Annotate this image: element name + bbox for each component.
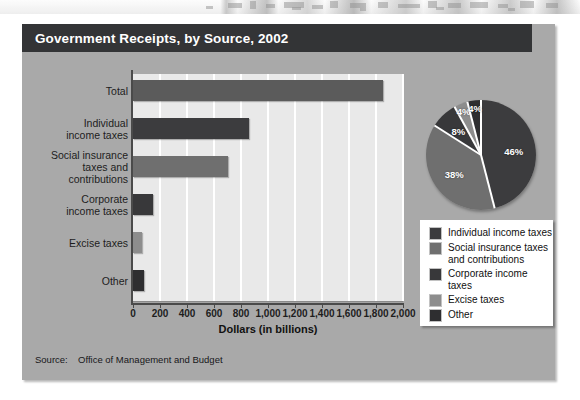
bar-category-label-line: income taxes: [0, 205, 128, 217]
legend-item-label: Social insurance taxesand contributions: [448, 242, 548, 265]
pie-chart: 46%38%8%4%4%: [426, 100, 536, 210]
x-tick-label: 600: [206, 308, 223, 319]
x-tick-label: 1,000: [255, 308, 280, 319]
bar-category-label-line: Other: [0, 275, 128, 287]
bar: [133, 232, 142, 253]
x-tick-label: 200: [152, 308, 169, 319]
source-value: Office of Management and Budget: [78, 354, 223, 365]
x-tick-label: 2,000: [390, 308, 415, 319]
bar-category-label: Individualincome taxes: [0, 117, 128, 141]
source-note: Source: Office of Management and Budget: [35, 354, 223, 365]
legend-item-label-line: Other: [448, 309, 473, 321]
bar-category-label: Social insurancetaxes andcontributions: [0, 149, 128, 185]
scan-fleck: [378, 2, 388, 8]
scan-fleck: [312, 5, 323, 9]
scan-fleck: [250, 1, 256, 9]
x-tick-label: 1,800: [363, 308, 388, 319]
legend-item[interactable]: Corporate income taxes: [430, 268, 553, 291]
figure-card: Government Receipts, by Source, 2002 Tot…: [22, 24, 555, 380]
legend-item-label-line: Excise taxes: [448, 294, 504, 306]
legend-item-label-line: and contributions: [448, 254, 548, 266]
legend-color-swatch: [430, 269, 441, 280]
x-tick-label: 1,400: [309, 308, 334, 319]
bar-category-label: Other: [0, 275, 128, 287]
gridline: [213, 74, 215, 301]
bar-category-label-line: Excise taxes: [0, 237, 128, 249]
scan-fleck: [398, 4, 420, 8]
scan-fleck: [266, 4, 275, 8]
x-tick-label: 0: [130, 308, 136, 319]
scan-fleck: [330, 1, 338, 8]
legend-item[interactable]: Excise taxes: [430, 294, 553, 306]
x-tick-label: 1,600: [336, 308, 361, 319]
legend-item-label-line: Individual income taxes: [448, 227, 552, 239]
gridline: [159, 74, 161, 301]
gridline: [294, 74, 296, 301]
scan-fleck: [448, 3, 461, 8]
legend-item[interactable]: Social insurance taxesand contributions: [430, 242, 553, 265]
scan-fleck: [292, 7, 301, 10]
bar-category-label-line: Individual: [0, 117, 128, 129]
bar-category-label-line: Corporate: [0, 193, 128, 205]
scan-fleck: [520, 1, 534, 8]
legend-color-swatch: [430, 243, 441, 254]
source-label: Source:: [35, 354, 68, 365]
legend-item-label: Other: [448, 309, 473, 321]
x-tick-label: 800: [233, 308, 250, 319]
bar: [133, 194, 153, 215]
pie-slice-percent-label: 8%: [452, 125, 466, 136]
x-axis-line: [131, 303, 403, 305]
x-axis-title: Dollars (in billions): [132, 323, 404, 335]
scan-fleck: [498, 4, 508, 8]
legend-item-label-line: Corporate income taxes: [448, 268, 553, 291]
x-tick-label: 1,200: [282, 308, 307, 319]
legend-item-label: Individual income taxes: [448, 227, 552, 239]
gridline: [240, 74, 242, 301]
scan-fleck: [206, 6, 213, 9]
gridline: [402, 74, 404, 301]
bar-category-label-line: taxes and: [0, 161, 128, 173]
pie-chart-legend: Individual income taxesSocial insurance …: [420, 220, 553, 326]
scan-fleck: [436, 7, 444, 10]
figure-title-bar: Government Receipts, by Source, 2002: [22, 24, 532, 52]
bar-category-label: Excise taxes: [0, 237, 128, 249]
bar-chart: TotalIndividualincome taxesSocial insura…: [22, 52, 414, 352]
gridline: [267, 74, 269, 301]
x-tick-label: 400: [179, 308, 196, 319]
scan-fleck: [360, 8, 366, 11]
pie-slice-percent-label: 38%: [445, 169, 464, 180]
gridline: [348, 74, 350, 301]
gridline: [321, 74, 323, 301]
legend-item-label: Corporate income taxes: [448, 268, 553, 291]
bar-category-label-line: Social insurance: [0, 149, 128, 161]
legend-item-label: Excise taxes: [448, 294, 504, 306]
pie-slice-percent-label: 46%: [504, 145, 523, 156]
gridline: [375, 74, 377, 301]
scanned-page-artifact: [0, 0, 580, 14]
bar: [133, 80, 383, 101]
bar: [133, 270, 144, 291]
legend-color-swatch: [430, 228, 441, 239]
scan-fleck: [470, 2, 488, 8]
bar: [133, 156, 228, 177]
legend-item-label-line: Social insurance taxes: [448, 242, 548, 254]
page-title: Government Receipts, by Source, 2002: [22, 31, 288, 46]
bar-category-label-line: income taxes: [0, 129, 128, 141]
bar-category-label: Total: [0, 85, 128, 97]
bar-category-label-line: contributions: [0, 173, 128, 185]
legend-item[interactable]: Individual income taxes: [430, 227, 553, 239]
scan-fleck: [228, 3, 242, 8]
legend-color-swatch: [430, 310, 441, 321]
bar-category-label-line: Total: [0, 85, 128, 97]
scan-fleck: [508, 8, 515, 11]
pie-slice-percent-label: 4%: [468, 103, 482, 114]
gridline: [186, 74, 188, 301]
scan-fleck: [546, 3, 558, 8]
legend-color-swatch: [430, 295, 441, 306]
legend-item[interactable]: Other: [430, 309, 553, 321]
bar: [133, 118, 249, 139]
bar-category-label: Corporateincome taxes: [0, 193, 128, 217]
